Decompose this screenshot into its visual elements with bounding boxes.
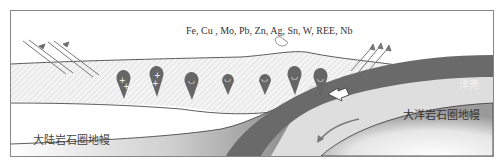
continental-lithosphere-label: 大陆岩石圈地幔 [33,131,110,147]
svg-text:◡: ◡ [224,74,231,83]
svg-text:+: + [152,79,159,88]
subduction-diagram: ++ ++ ◡ ◡ ◡ ◡ ◡ Fe, Cu , Mo, Pb, Zn, Ag,… [10,10,494,157]
oceanic-lithosphere-label: 大洋岩石圈地幔 [403,106,480,122]
svg-text:◡: ◡ [261,74,268,83]
oceanic-crust-label: 洋壳 [459,76,479,91]
svg-text:+: + [123,82,130,91]
svg-text:◡: ◡ [291,72,298,81]
svg-text:◡: ◡ [317,74,324,83]
cloud-icon [275,37,287,46]
svg-text:◡: ◡ [188,76,195,85]
elements-label: Fe, Cu , Mo, Pb, Zn, Ag, Sn, W, REE, Nb [186,25,352,36]
